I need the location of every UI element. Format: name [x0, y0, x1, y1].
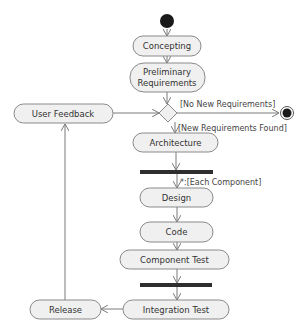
- activity-label: Component Test: [140, 255, 209, 265]
- activity-code: Code: [140, 222, 213, 242]
- activity-label: Architecture: [149, 138, 201, 148]
- activity-component-test: Component Test: [120, 250, 229, 269]
- fork-bar: [140, 170, 213, 174]
- join-bar: [140, 283, 212, 287]
- final-node: [281, 107, 294, 120]
- activity-integration-test: Integration Test: [123, 300, 229, 319]
- guard-no-new-requirements: [No New Requirements]: [180, 100, 275, 109]
- activity-label: Integration Test: [143, 305, 210, 315]
- guard-new-requirements-found: [New Requirements Found]: [178, 124, 287, 133]
- activity-label: Preliminary: [143, 67, 191, 77]
- activity-preliminary-requirements: Preliminary Requirements: [130, 63, 205, 92]
- activity-label: Code: [166, 227, 188, 237]
- activity-concepting: Concepting: [133, 36, 201, 56]
- activity-architecture: Architecture: [133, 133, 218, 152]
- initial-node: [160, 14, 174, 28]
- activity-diagram: Concepting Preliminary Requirements User…: [0, 0, 307, 336]
- activity-label: Concepting: [143, 41, 191, 51]
- activity-label: Design: [162, 193, 191, 203]
- activity-user-feedback: User Feedback: [14, 104, 113, 123]
- decision-node: [159, 104, 177, 122]
- activity-label: User Feedback: [32, 109, 95, 119]
- guard-each-component: *:[Each Component]: [180, 178, 261, 187]
- activity-release: Release: [30, 300, 101, 319]
- activity-label: Release: [49, 305, 82, 315]
- activity-label: Requirements: [137, 78, 197, 88]
- activity-design: Design: [140, 188, 213, 207]
